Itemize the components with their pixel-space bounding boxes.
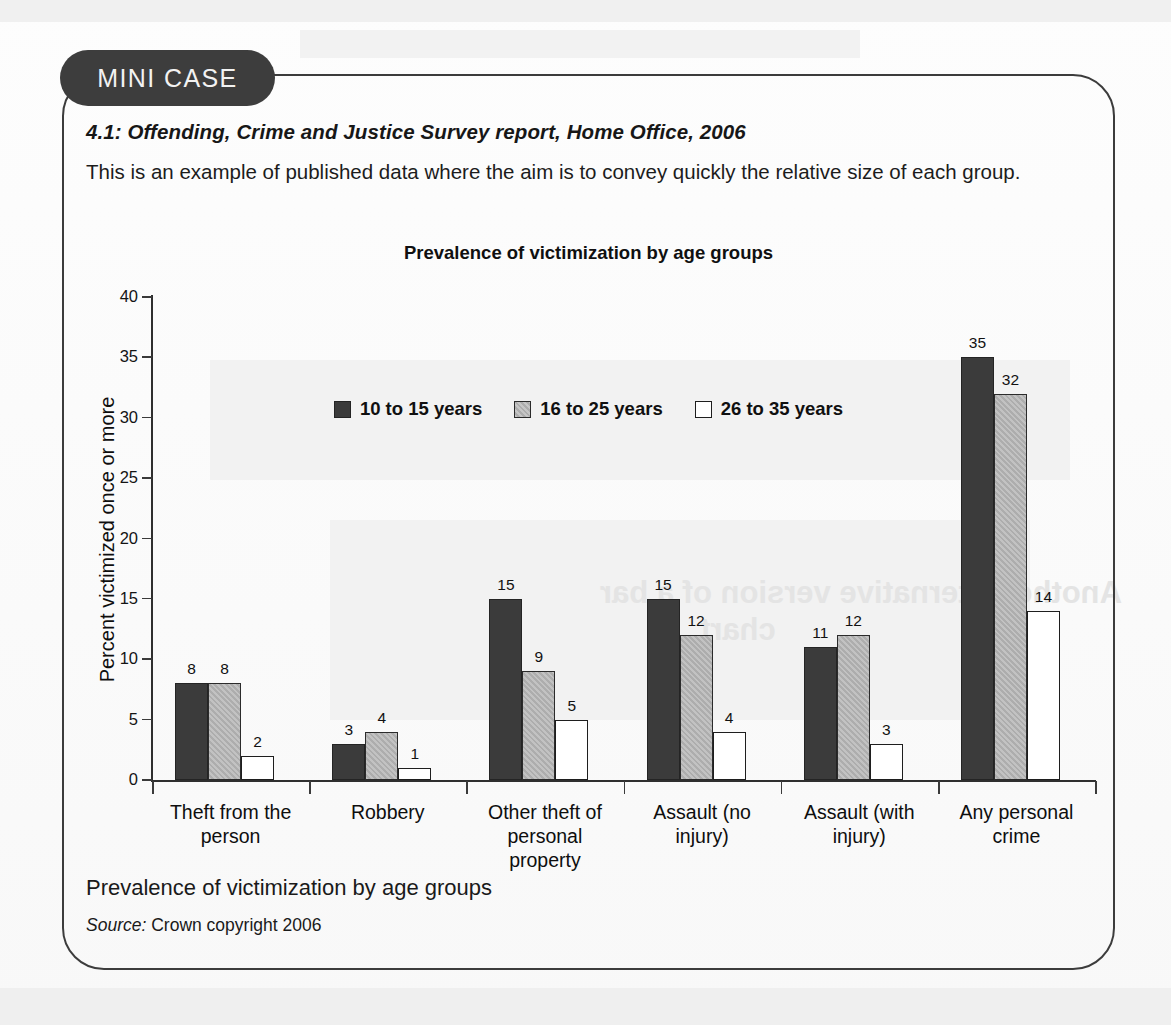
bar-value-label: 4 — [725, 709, 734, 727]
bar-value-label: 8 — [187, 660, 196, 678]
legend-label: 26 to 35 years — [721, 398, 843, 420]
y-tick-mark — [142, 719, 152, 721]
x-tick-mark — [781, 781, 783, 794]
y-tick-mark — [142, 477, 152, 479]
bar-2-0 — [489, 599, 522, 780]
source-label: Source: — [86, 915, 146, 935]
category-label-line: Robbery — [309, 800, 466, 824]
category-label-line: Assault (no — [624, 800, 781, 824]
scan-bottom-shadow — [0, 988, 1171, 1025]
bleed-band-1 — [300, 30, 860, 58]
bar-1-2 — [398, 768, 431, 780]
bar-4-0 — [804, 647, 837, 780]
chart-title: Prevalence of victimization by age group… — [62, 242, 1115, 264]
bar-value-label: 4 — [377, 709, 386, 727]
x-tick-mark — [152, 781, 154, 794]
legend-swatch-icon — [695, 401, 712, 418]
y-tick-mark — [142, 296, 152, 298]
bar-5-0 — [961, 357, 994, 780]
category-label-5: Any personalcrime — [938, 800, 1095, 848]
bar-5-1 — [994, 394, 1027, 780]
bar-value-label: 32 — [1002, 371, 1019, 389]
bar-value-label: 15 — [497, 576, 514, 594]
y-tick-label: 40 — [96, 287, 138, 306]
y-tick-label: 20 — [96, 529, 138, 548]
figure-caption: Prevalence of victimization by age group… — [86, 875, 492, 901]
x-tick-mark — [1095, 781, 1097, 794]
x-tick-mark — [466, 781, 468, 794]
bar-value-label: 12 — [687, 612, 704, 630]
bar-0-2 — [241, 756, 274, 780]
bar-2-1 — [522, 671, 555, 780]
bar-value-label: 5 — [568, 697, 577, 715]
legend-label: 10 to 15 years — [360, 398, 482, 420]
bar-value-label: 1 — [410, 745, 419, 763]
x-tick-mark — [938, 781, 940, 794]
bar-0-0 — [175, 683, 208, 780]
bar-3-0 — [647, 599, 680, 780]
case-body-text: This is an example of published data whe… — [86, 156, 1046, 187]
bar-value-label: 8 — [220, 660, 229, 678]
bar-4-2 — [870, 744, 903, 780]
y-tick-label: 25 — [96, 468, 138, 487]
bar-5-2 — [1027, 611, 1060, 780]
bar-4-1 — [837, 635, 870, 780]
category-label-line: injury) — [624, 824, 781, 848]
y-tick-mark — [142, 538, 152, 540]
category-label-1: Robbery — [309, 800, 466, 824]
legend-item-1[interactable]: 16 to 25 years — [514, 398, 662, 420]
bar-value-label: 35 — [969, 334, 986, 352]
chart-legend: 10 to 15 years16 to 25 years26 to 35 yea… — [62, 398, 1115, 420]
plot-area: 88234115951512411123353214 — [152, 297, 1095, 780]
y-tick-label: 10 — [96, 649, 138, 668]
category-label-line: Theft from the — [152, 800, 309, 824]
mini-case-badge-label: MINI CASE — [97, 64, 237, 93]
y-tick-label: 5 — [96, 710, 138, 729]
legend-swatch-icon — [334, 401, 351, 418]
y-tick-label: 0 — [96, 770, 138, 789]
legend-item-0[interactable]: 10 to 15 years — [334, 398, 482, 420]
bar-value-label: 2 — [253, 733, 262, 751]
category-label-2: Other theft ofpersonalproperty — [466, 800, 623, 872]
category-label-line: property — [466, 848, 623, 872]
figure-source: Source: Crown copyright 2006 — [86, 915, 321, 936]
bar-value-label: 3 — [344, 721, 353, 739]
source-text: Crown copyright 2006 — [151, 915, 321, 935]
bar-value-label: 11 — [812, 624, 828, 642]
bar-value-label: 14 — [1035, 588, 1052, 606]
case-title: 4.1: Offending, Crime and Justice Survey… — [86, 120, 746, 144]
category-label-line: person — [152, 824, 309, 848]
y-tick-mark — [142, 658, 152, 660]
category-label-line: Assault (with — [781, 800, 938, 824]
legend-label: 16 to 25 years — [540, 398, 662, 420]
bar-value-label: 9 — [535, 648, 544, 666]
y-tick-mark — [142, 356, 152, 358]
category-label-line: Any personal — [938, 800, 1095, 824]
category-label-line: personal — [466, 824, 623, 848]
y-tick-mark — [142, 779, 152, 781]
y-tick-label: 15 — [96, 589, 138, 608]
bar-1-0 — [332, 744, 365, 780]
category-label-0: Theft from theperson — [152, 800, 309, 848]
y-tick-label: 35 — [96, 347, 138, 366]
y-tick-mark — [142, 598, 152, 600]
x-tick-mark — [624, 781, 626, 794]
bar-chart: Prevalence of victimization by age group… — [62, 228, 1115, 868]
category-label-line: injury) — [781, 824, 938, 848]
category-label-line: Other theft of — [466, 800, 623, 824]
legend-swatch-icon — [514, 401, 531, 418]
category-label-4: Assault (withinjury) — [781, 800, 938, 848]
category-label-3: Assault (noinjury) — [624, 800, 781, 848]
bar-2-2 — [555, 720, 588, 780]
bar-value-label: 15 — [654, 576, 671, 594]
x-tick-mark — [309, 781, 311, 794]
bar-3-2 — [713, 732, 746, 780]
mini-case-badge: MINI CASE — [60, 50, 275, 106]
bar-0-1 — [208, 683, 241, 780]
bar-1-1 — [365, 732, 398, 780]
category-label-line: crime — [938, 824, 1095, 848]
bar-value-label: 12 — [845, 612, 862, 630]
scan-edge-shadow — [0, 0, 1171, 22]
bar-3-1 — [680, 635, 713, 780]
legend-item-2[interactable]: 26 to 35 years — [695, 398, 843, 420]
